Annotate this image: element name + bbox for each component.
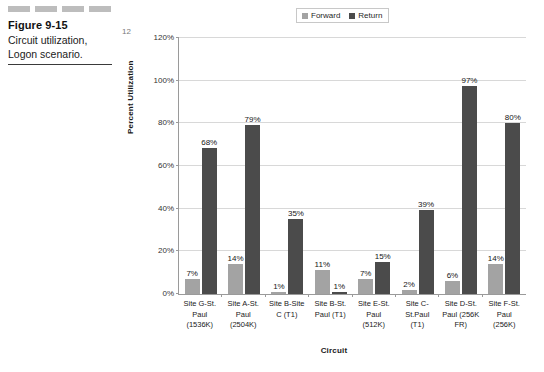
bar-value-label: 7% bbox=[360, 269, 372, 278]
bar-group: 7%15% bbox=[353, 38, 396, 294]
dash-segment bbox=[89, 6, 111, 12]
bar-group: 2%39% bbox=[396, 38, 439, 294]
bar-forward[interactable]: 11% bbox=[315, 270, 330, 294]
x-axis-tick-label-line: (2504K) bbox=[223, 320, 265, 331]
x-axis-tick-label-line: Site D-St. bbox=[440, 299, 482, 310]
bar-rect[interactable]: 7% bbox=[185, 279, 200, 294]
x-axis-tick-label-line: Site F-St. bbox=[484, 299, 526, 310]
figure-caption-block: Figure 9-15 Circuit utilization, Logon s… bbox=[8, 6, 120, 65]
bar-forward[interactable]: 14% bbox=[228, 264, 243, 294]
bar-group: 11%1% bbox=[309, 38, 352, 294]
bar-return[interactable]: 15% bbox=[375, 262, 390, 294]
bar-rect[interactable]: 7% bbox=[358, 279, 373, 294]
bar-rect[interactable]: 80% bbox=[505, 123, 520, 294]
x-axis-tick-label-line: Paul (T1) bbox=[310, 310, 352, 321]
chart-legend: Forward Return bbox=[296, 8, 389, 23]
bar-forward[interactable]: 14% bbox=[488, 264, 503, 294]
bar-rect[interactable]: 79% bbox=[245, 125, 260, 294]
figure-caption-text: Circuit utilization, Logon scenario. bbox=[8, 33, 120, 61]
x-axis-tick-label-line: Site B-St. bbox=[310, 299, 352, 310]
bar-group: 1%35% bbox=[266, 38, 309, 294]
x-axis-tick-label: Site F-St.Paul(256K) bbox=[483, 299, 527, 331]
x-axis-tick-label: Site E-St.Paul(512K) bbox=[352, 299, 396, 331]
dash-segment bbox=[35, 6, 57, 12]
plot-area: 0%20%40%60%80%100%120% 7%68%14%79%1%35%1… bbox=[178, 38, 526, 295]
bar-rect[interactable]: 68% bbox=[202, 148, 217, 294]
x-axis-tick-mark bbox=[352, 294, 353, 297]
x-axis-tick-label-line: Paul bbox=[353, 310, 395, 321]
bar-rect[interactable]: 35% bbox=[288, 219, 303, 294]
bar-rect[interactable]: 1% bbox=[271, 292, 286, 294]
x-axis-tick-label-line: Paul (256K bbox=[440, 310, 482, 321]
x-axis-title: Circuit bbox=[128, 346, 540, 355]
bar-rect[interactable]: 11% bbox=[315, 270, 330, 294]
bar-groups: 7%68%14%79%1%35%11%1%7%15%2%39%6%97%14%8… bbox=[179, 38, 526, 294]
x-axis-tick-label: Site C-St.Paul(T1) bbox=[396, 299, 440, 331]
x-axis-tick-label-line: Site C- bbox=[397, 299, 439, 310]
legend-entry-forward: Forward bbox=[302, 11, 340, 20]
x-axis-tick-label: Site G-St.Paul(1536K) bbox=[178, 299, 222, 331]
bar-rect[interactable]: 1% bbox=[332, 292, 347, 294]
x-axis-tick-label-line: FR) bbox=[440, 320, 482, 331]
y-axis-tick-label: 0% bbox=[162, 289, 174, 298]
x-axis-tick-mark bbox=[482, 294, 483, 297]
legend-label-return: Return bbox=[358, 11, 382, 20]
bar-rect[interactable]: 6% bbox=[445, 281, 460, 294]
dash-segment bbox=[62, 6, 84, 12]
x-axis-tick-labels: Site G-St.Paul(1536K)Site A-St.Paul(2504… bbox=[178, 299, 526, 331]
bar-return[interactable]: 39% bbox=[419, 210, 434, 294]
bar-forward[interactable]: 6% bbox=[445, 281, 460, 294]
x-axis-tick-label-line: Paul bbox=[223, 310, 265, 321]
y-axis-tick-label: 100% bbox=[154, 75, 174, 84]
y-axis-tick-label: 80% bbox=[158, 118, 174, 127]
x-axis-tick-label-line: Site B-Site bbox=[266, 299, 308, 310]
bar-rect[interactable]: 15% bbox=[375, 262, 390, 294]
bar-return[interactable]: 1% bbox=[332, 292, 347, 294]
y-axis-tick-label: 40% bbox=[158, 203, 174, 212]
bar-value-label: 35% bbox=[288, 209, 304, 218]
figure-caption-line-1: Circuit utilization, bbox=[8, 33, 120, 47]
y-axis-tick-label: 60% bbox=[158, 161, 174, 170]
bar-rect[interactable]: 97% bbox=[462, 86, 477, 294]
bar-forward[interactable]: 1% bbox=[271, 292, 286, 294]
bar-group: 6%97% bbox=[439, 38, 482, 294]
y-axis-title: Percent Utilization bbox=[126, 60, 135, 134]
bar-value-label: 6% bbox=[447, 271, 459, 280]
bar-value-label: 1% bbox=[334, 282, 346, 291]
legend-swatch-return bbox=[349, 13, 355, 19]
x-axis-tick-label-line: Paul bbox=[484, 310, 526, 321]
bar-return[interactable]: 68% bbox=[202, 148, 217, 294]
bar-value-label: 97% bbox=[461, 76, 477, 85]
x-axis-tick-mark bbox=[308, 294, 309, 297]
bar-rect[interactable]: 39% bbox=[419, 210, 434, 294]
bar-return[interactable]: 79% bbox=[245, 125, 260, 294]
bar-return[interactable]: 97% bbox=[462, 86, 477, 294]
bar-forward[interactable]: 7% bbox=[358, 279, 373, 294]
figure-caption-line-2: Logon scenario. bbox=[8, 47, 120, 61]
x-axis-tick-label-line: (256K) bbox=[484, 320, 526, 331]
y-axis-tick-label: 20% bbox=[158, 246, 174, 255]
bar-group: 14%80% bbox=[483, 38, 526, 294]
bar-value-label: 79% bbox=[245, 115, 261, 124]
bar-forward[interactable]: 7% bbox=[185, 279, 200, 294]
bar-forward[interactable]: 2% bbox=[402, 290, 417, 294]
legend-entry-return: Return bbox=[349, 11, 382, 20]
x-axis-tick-label-line: Site A-St. bbox=[223, 299, 265, 310]
x-axis-tick-label-line: Site E-St. bbox=[353, 299, 395, 310]
bar-value-label: 39% bbox=[418, 200, 434, 209]
y-axis-tick-label: 120% bbox=[154, 33, 174, 42]
legend-label-forward: Forward bbox=[311, 11, 340, 20]
bar-group: 7%68% bbox=[179, 38, 222, 294]
bar-rect[interactable]: 2% bbox=[402, 290, 417, 294]
figure-number: Figure 9-15 bbox=[8, 18, 120, 32]
bar-rect[interactable]: 14% bbox=[228, 264, 243, 294]
x-axis-tick-label: Site A-St.Paul(2504K) bbox=[222, 299, 266, 331]
x-axis-tick-label-line: Site G-St. bbox=[179, 299, 221, 310]
bar-value-label: 14% bbox=[488, 254, 504, 263]
bar-return[interactable]: 35% bbox=[288, 219, 303, 294]
bar-return[interactable]: 80% bbox=[505, 123, 520, 294]
x-axis-tick-mark bbox=[265, 294, 266, 297]
bar-rect[interactable]: 14% bbox=[488, 264, 503, 294]
bar-value-label: 80% bbox=[505, 113, 521, 122]
caption-underline bbox=[8, 64, 112, 65]
